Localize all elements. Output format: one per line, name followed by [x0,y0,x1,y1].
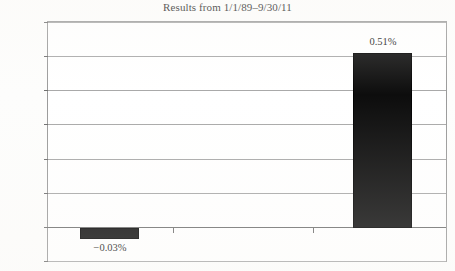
gridline-7 [48,261,446,262]
gridline-0 [48,22,446,23]
plot-area: 0.60%0.50%0.40%0.30%0.20%0.10%0.00%-0.10… [47,21,447,262]
y-axis-tick-mark-0 [44,22,48,23]
x-axis-tick-2 [313,228,314,233]
chart-screenshot: Results from 1/1/89–9/30/11 0.60%0.50%0.… [0,0,455,271]
x-axis-tick-1 [173,228,174,233]
bar-category-3 [353,53,412,228]
bar-label-category-3: 0.51% [333,36,433,47]
y-axis-tick-mark-5 [44,193,48,194]
y-axis-tick-mark-3 [44,124,48,125]
y-axis-tick-mark-4 [44,159,48,160]
y-axis-tick-mark-1 [44,56,48,57]
bar-category-1 [80,228,139,239]
y-axis-tick-mark-6 [44,227,48,228]
chart-title: Results from 1/1/89–9/30/11 [0,1,455,13]
y-axis-tick-mark-2 [44,90,48,91]
y-axis-tick-mark-7 [44,261,48,262]
bar-label-category-1: −0.03% [60,242,160,253]
